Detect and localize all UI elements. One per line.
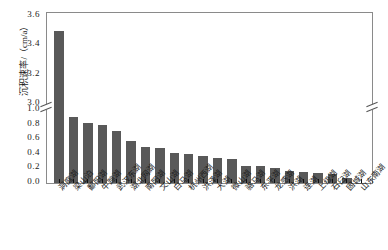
- bar-slot: [112, 13, 121, 183]
- bar-slot: [313, 13, 322, 183]
- y-axis-tick-label: 1.0: [27, 104, 40, 113]
- y-axis-tick-group: 3.63.43.23.01.00.80.60.40.20.0: [0, 0, 46, 196]
- bar[interactable]: [54, 31, 63, 183]
- bar-slot: [54, 13, 63, 183]
- bar-slot: [328, 13, 337, 183]
- x-axis-label-group: 洞庭湖梁山泊鄱阳湖牛蹄湖武汉东湖湖北网湖南阳湖文山湖白马湖杭州西湖洪泽湖大湖微山…: [47, 186, 372, 250]
- bar-slot: [98, 13, 107, 183]
- y-axis-tick-label: 3.4: [27, 39, 40, 48]
- bar-slot: [184, 13, 193, 183]
- bar-slot: [83, 13, 92, 183]
- y-axis-tick-label: 3.2: [27, 69, 40, 78]
- bar-slot: [299, 13, 308, 183]
- bar-slot: [241, 13, 250, 183]
- bar-slot: [155, 13, 164, 183]
- bar-slot: [141, 13, 150, 183]
- bar-slot: [69, 13, 78, 183]
- bar-slot: [342, 13, 351, 183]
- bar-slot: [213, 13, 222, 183]
- bar-slot: [126, 13, 135, 183]
- bar-slot: [198, 13, 207, 183]
- y-axis-tick-label: 3.6: [27, 10, 40, 19]
- y-axis-tick-label: 0.2: [27, 162, 40, 171]
- y-axis-tick-label: 0.4: [27, 148, 40, 157]
- y-axis-tick-label: 0.0: [27, 177, 40, 186]
- y-axis-tick-label: 0.8: [27, 119, 40, 128]
- bar-slot: [270, 13, 279, 183]
- y-axis-tick-label: 0.6: [27, 133, 40, 142]
- bar-slot: [170, 13, 179, 183]
- bar-slot: [256, 13, 265, 183]
- bar-slot: [227, 13, 236, 183]
- bar-slot: [285, 13, 294, 183]
- bars-layer: [47, 13, 372, 183]
- bar-slot: [356, 13, 365, 183]
